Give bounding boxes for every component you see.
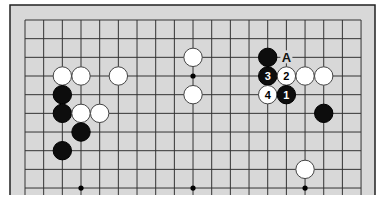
point-label-marker: A: [282, 50, 292, 65]
white-stone: 2: [277, 67, 295, 85]
black-stone: [53, 141, 71, 159]
bottom-cutoff: [0, 195, 383, 205]
black-stone: [72, 123, 90, 141]
black-stone: [53, 104, 71, 122]
move-number-label: 4: [265, 89, 272, 101]
white-stone: [296, 67, 314, 85]
markers-layer: A: [280, 50, 292, 65]
white-stone: [184, 85, 202, 103]
star-point: [190, 73, 195, 78]
white-stone: 4: [259, 85, 277, 103]
star-point: [190, 185, 195, 190]
black-stone: 1: [277, 85, 295, 103]
white-stone: [296, 160, 314, 178]
white-stone: [72, 104, 90, 122]
black-stone: [53, 85, 71, 103]
black-stone: 3: [259, 67, 277, 85]
white-stone: [109, 67, 127, 85]
white-stone: [90, 104, 108, 122]
black-stone: [315, 104, 333, 122]
star-point: [78, 185, 83, 190]
black-stone: [259, 48, 277, 66]
white-stone: [53, 67, 71, 85]
white-stone: [184, 48, 202, 66]
move-number-label: 1: [283, 89, 289, 101]
white-stone: [315, 67, 333, 85]
move-number-label: 3: [265, 70, 271, 82]
go-board: 3241 A: [0, 0, 383, 205]
white-stone: [72, 67, 90, 85]
star-point: [302, 185, 307, 190]
move-number-label: 2: [283, 70, 289, 82]
